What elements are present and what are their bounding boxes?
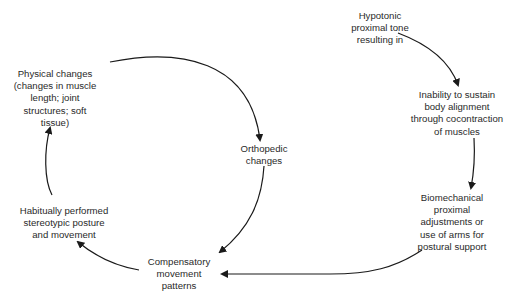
arrow-orthopedic-to-compensatory bbox=[220, 166, 264, 252]
node-line: Inability to sustain bbox=[404, 89, 510, 101]
arrow-physical-to-orthopedic bbox=[110, 57, 260, 140]
node-line: Hypotonic bbox=[340, 10, 420, 22]
node-hypotonic-proximal-tone: Hypotonic proximal tone resulting in bbox=[340, 10, 420, 47]
node-line: (changes in muscle bbox=[10, 80, 100, 92]
node-line: and movement bbox=[12, 229, 116, 241]
arrow-compensatory-to-habitual bbox=[78, 242, 139, 270]
node-line: movement bbox=[136, 268, 222, 280]
node-line: Compensatory bbox=[136, 256, 222, 268]
node-line: length; joint bbox=[10, 92, 100, 104]
node-line: through cocontraction bbox=[404, 113, 510, 125]
node-biomechanical-adjustments: Biomechanical proximal adjustments or us… bbox=[402, 192, 502, 253]
node-line: postural support bbox=[402, 241, 502, 253]
node-line: changes bbox=[232, 155, 296, 167]
node-line: proximal tone bbox=[340, 22, 420, 34]
node-line: patterns bbox=[136, 280, 222, 292]
node-line: resulting in bbox=[340, 34, 420, 46]
node-line: proximal bbox=[402, 204, 502, 216]
node-line: tissue) bbox=[10, 117, 100, 129]
node-line: body alignment bbox=[404, 101, 510, 113]
node-inability-to-sustain: Inability to sustain body alignment thro… bbox=[404, 89, 510, 138]
node-line: structures; soft bbox=[10, 105, 100, 117]
node-physical-changes: Physical changes (changes in muscle leng… bbox=[10, 68, 100, 129]
node-line: use of arms for bbox=[402, 229, 502, 241]
arrow-inability-to-biomechanical bbox=[471, 138, 474, 188]
node-line: Orthopedic bbox=[232, 143, 296, 155]
node-line: of muscles bbox=[404, 126, 510, 138]
node-compensatory-movement-patterns: Compensatory movement patterns bbox=[136, 256, 222, 293]
node-orthopedic-changes: Orthopedic changes bbox=[232, 143, 296, 167]
node-line: stereotypic posture bbox=[12, 217, 116, 229]
node-line: Biomechanical bbox=[402, 192, 502, 204]
node-line: Habitually performed bbox=[12, 205, 116, 217]
node-line: adjustments or bbox=[402, 216, 502, 228]
arrow-habitual-to-physical bbox=[46, 128, 52, 195]
node-line: Physical changes bbox=[10, 68, 100, 80]
arrow-biomechanical-to-compensatory bbox=[222, 250, 422, 274]
node-habitually-performed: Habitually performed stereotypic posture… bbox=[12, 205, 116, 242]
